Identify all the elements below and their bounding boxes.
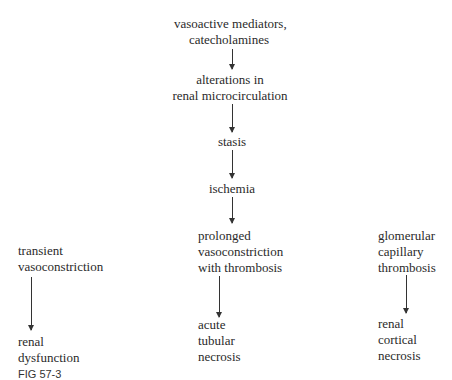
node-line: alterations in (170, 72, 290, 88)
node-acute-tubular-necrosis: acute tubular necrosis (198, 317, 241, 365)
arrow-down (232, 49, 233, 69)
node-glomerular-capillary-thrombosis: glomerular capillary thrombosis (378, 228, 436, 276)
node-alterations-microcirculation: alterations in renal microcirculation (170, 72, 290, 104)
node-line: dysfunction (18, 350, 79, 366)
node-line: vasoconstriction (198, 244, 283, 260)
node-stasis: stasis (200, 134, 264, 150)
arrow-down (232, 150, 233, 178)
node-transient-vasoconstriction: transient vasoconstriction (18, 243, 103, 275)
node-renal-dysfunction: renal dysfunction (18, 334, 79, 366)
node-line: vasoactive mediators, (174, 16, 284, 32)
arrow-down (219, 276, 220, 317)
arrow-down (232, 197, 233, 223)
node-line: renal (378, 316, 421, 332)
node-line: stasis (200, 134, 264, 150)
node-line: with thrombosis (198, 260, 283, 276)
arrow-down (232, 104, 233, 132)
node-line: acute (198, 317, 241, 333)
node-line: transient (18, 243, 103, 259)
node-line: cortical (378, 332, 421, 348)
node-line: renal microcirculation (170, 88, 290, 104)
node-prolonged-vasoconstriction: prolonged vasoconstriction with thrombos… (198, 228, 283, 276)
arrow-down (31, 277, 32, 330)
node-line: capillary (378, 244, 436, 260)
node-line: catecholamines (174, 32, 284, 48)
node-line: necrosis (378, 348, 421, 364)
node-line: ischemia (200, 181, 264, 197)
node-line: renal (18, 334, 79, 350)
node-line: prolonged (198, 228, 283, 244)
arrow-down (406, 275, 407, 313)
node-ischemia: ischemia (200, 181, 264, 197)
figure-caption: FIG 57-3 (18, 368, 61, 380)
node-line: tubular (198, 333, 241, 349)
node-line: vasoconstriction (18, 259, 103, 275)
node-renal-cortical-necrosis: renal cortical necrosis (378, 316, 421, 364)
node-vasoactive-mediators: vasoactive mediators, catecholamines (174, 16, 284, 48)
node-line: thrombosis (378, 260, 436, 276)
node-line: glomerular (378, 228, 436, 244)
node-line: necrosis (198, 349, 241, 365)
